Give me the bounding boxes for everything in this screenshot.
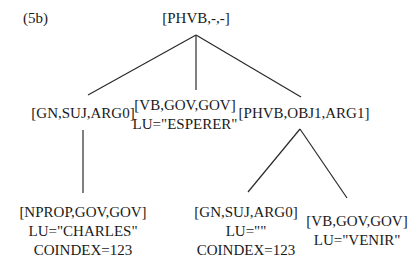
edge-phvb-to-gn-empty — [248, 129, 300, 192]
node-line: COINDEX=123 — [194, 241, 297, 260]
node-line: [PHVB,-,-] — [162, 9, 230, 28]
node-nprop-charles: [NPROP,GOV,GOV] LU="CHARLES" COINDEX=123 — [19, 203, 146, 260]
node-vb-esperer: [VB,GOV,GOV] LU="ESPERER" — [133, 96, 238, 134]
node-phvb-obj1-arg1: [PHVB,OBJ1,ARG1] — [239, 104, 370, 123]
node-line: [GN,SUJ,ARG0] — [194, 203, 297, 222]
edge-root-to-phvb-obj1 — [196, 35, 301, 97]
node-line: LU="CHARLES" — [19, 222, 146, 241]
node-line: LU="VENIR" — [306, 231, 407, 250]
node-root-phvb: [PHVB,-,-] — [162, 9, 230, 28]
node-line: LU="" — [194, 222, 297, 241]
node-gn-suj-arg0: [GN,SUJ,ARG0] — [31, 104, 134, 123]
node-line: [VB,GOV,GOV] — [133, 96, 238, 115]
edge-phvb-to-vb-venir — [300, 129, 347, 198]
node-line: [GN,SUJ,ARG0] — [31, 104, 134, 123]
node-line: COINDEX=123 — [19, 241, 146, 260]
node-line: [NPROP,GOV,GOV] — [19, 203, 146, 222]
figure-label: (5b) — [23, 9, 48, 28]
edge-root-to-gn-suj — [88, 35, 196, 95]
node-gn-empty-lu: [GN,SUJ,ARG0] LU="" COINDEX=123 — [194, 203, 297, 260]
node-line: [PHVB,OBJ1,ARG1] — [239, 104, 370, 123]
node-vb-venir: [VB,GOV,GOV] LU="VENIR" — [306, 212, 407, 250]
node-line: [VB,GOV,GOV] — [306, 212, 407, 231]
node-line: LU="ESPERER" — [133, 115, 238, 134]
